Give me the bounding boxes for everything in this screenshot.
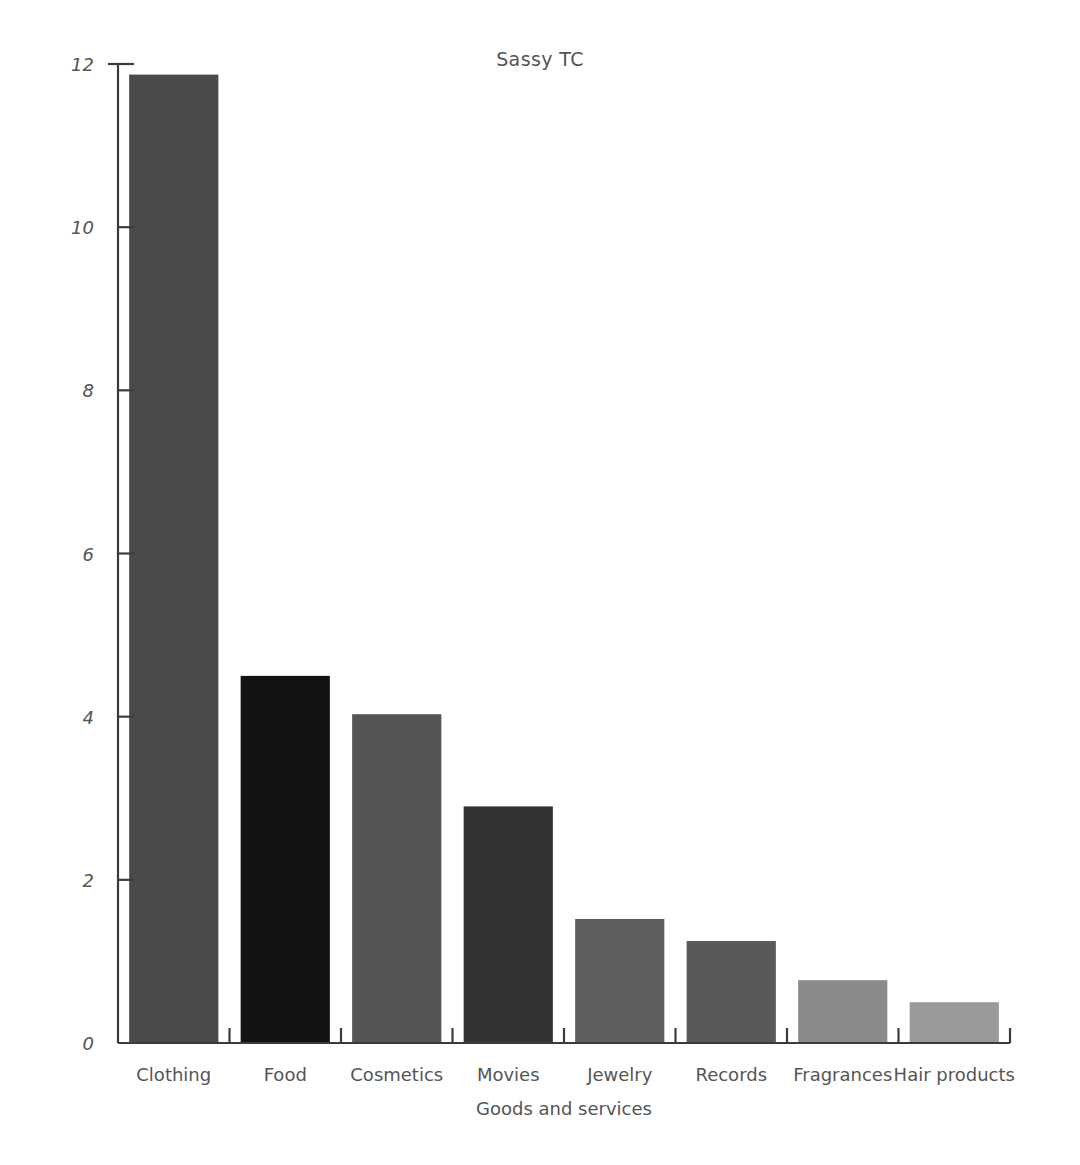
x-tick-label: Food [264, 1064, 307, 1085]
y-tick-label: 10 [71, 217, 94, 238]
y-tick-label: 2 [83, 870, 94, 891]
bar-cosmetics [352, 714, 441, 1043]
bar-clothing [129, 75, 218, 1043]
x-tick-label: Clothing [136, 1064, 211, 1085]
x-tick-label: Jewelry [586, 1064, 653, 1085]
bar-chart: Sassy TC Billions of dollars Goods and s… [0, 0, 1080, 1165]
y-tick-label: 12 [71, 54, 94, 75]
x-tick-label: Movies [477, 1064, 540, 1085]
y-tick-label: 4 [83, 707, 94, 728]
bar-jewelry [575, 919, 664, 1043]
plot-area: 024681012 ClothingFoodCosmeticsMoviesJew… [0, 0, 1080, 1165]
x-tick-label: Records [695, 1064, 767, 1085]
bar-fragrances [798, 980, 887, 1043]
x-tick-label: Fragrances [793, 1064, 892, 1085]
x-tick-label: Cosmetics [350, 1064, 443, 1085]
bar-movies [464, 806, 553, 1043]
bar-food [241, 676, 330, 1043]
bar-records [687, 941, 776, 1043]
y-axis-tick-labels: 024681012 [71, 54, 94, 1054]
y-tick-label: 0 [83, 1033, 94, 1054]
x-tick-label: Hair products [894, 1064, 1015, 1085]
bar-hair-products [910, 1002, 999, 1043]
y-tick-label: 8 [83, 380, 94, 401]
y-tick-label: 6 [83, 544, 94, 565]
bars-group [129, 75, 999, 1043]
x-axis-tick-labels: ClothingFoodCosmeticsMoviesJewelryRecord… [136, 1064, 1015, 1085]
